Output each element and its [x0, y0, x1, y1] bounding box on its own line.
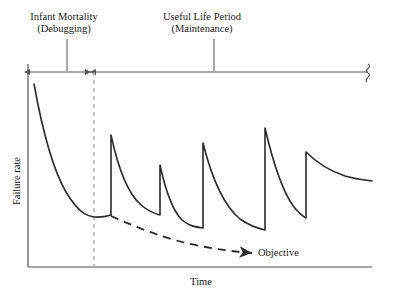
reliability-bathtub-figure: Infant Mortality (Debugging) Useful Life…	[0, 0, 402, 298]
curve-objective-dashed	[111, 216, 252, 253]
x-axis-label: Time	[0, 276, 402, 288]
phase-label-infant-mortality-line1: Infant Mortality	[14, 11, 114, 23]
figure-canvas	[0, 0, 402, 298]
phase-label-useful-life: Useful Life Period (Maintenance)	[147, 11, 257, 35]
curve-infant-mortality	[34, 84, 111, 217]
phase-label-infant-mortality: Infant Mortality (Debugging)	[14, 11, 114, 35]
curve-useful-life-sawtooth	[111, 128, 372, 230]
objective-annotation-label: Objective	[258, 247, 299, 259]
phase-label-useful-life-line1: Useful Life Period	[147, 11, 257, 23]
axis-break-icon	[366, 64, 369, 82]
phase-label-infant-mortality-line2: (Debugging)	[14, 23, 114, 35]
y-axis-label: Failure rate	[11, 146, 23, 216]
phase-label-useful-life-line2: (Maintenance)	[147, 23, 257, 35]
